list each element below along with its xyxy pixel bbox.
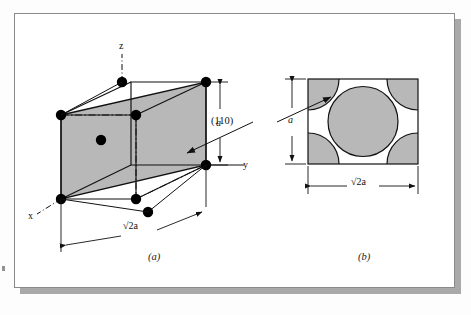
atom-body-center <box>96 135 106 145</box>
axis-label-z: z <box>119 40 123 51</box>
dimension-label-a-panel-a: a <box>216 117 221 128</box>
panel-b-atoms <box>277 48 449 195</box>
dimension-label-sqrt2a-panel-b: √2a <box>351 176 366 187</box>
dimension-label-sqrt2a-panel-a: √2a <box>123 220 138 231</box>
panel-caption-a: (a) <box>148 251 160 262</box>
plane-label-110: (110) <box>211 115 233 126</box>
panel-b-drawing <box>277 48 449 195</box>
atom-corner <box>131 110 141 120</box>
atom-corner <box>131 194 141 204</box>
page-canvas: z y x (110) a √2a a √2a (a) (b) <box>0 0 471 315</box>
panel-caption-b: (b) <box>358 251 370 262</box>
panel-a-drawing <box>15 14 456 289</box>
axis-label-y: y <box>243 159 248 170</box>
page-edge-mark <box>2 266 5 271</box>
axis-label-x: x <box>28 210 33 221</box>
figure-frame: z y x (110) a √2a a √2a (a) (b) <box>14 13 455 288</box>
dimension-label-a-panel-b: a <box>288 114 293 125</box>
figure-content: z y x (110) a √2a a √2a (a) (b) <box>15 14 454 287</box>
